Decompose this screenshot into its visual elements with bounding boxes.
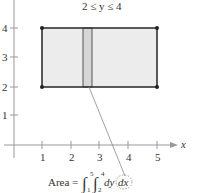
formula-prefix: Area = xyxy=(48,177,78,188)
inner-differential: dy xyxy=(104,177,114,188)
x-tick-label-4: 4 xyxy=(126,152,132,163)
x-tick-label-2: 2 xyxy=(69,152,75,163)
x-tick-label-1: 1 xyxy=(40,152,46,163)
x-tick-label-3: 3 xyxy=(97,152,103,163)
x-axis-arrow-icon xyxy=(170,142,178,148)
region-rectangle xyxy=(42,28,157,87)
diagram-canvas: ∫ ∫ xyxy=(0,0,198,193)
outer-upper-limit: 5 xyxy=(90,169,94,180)
inner-lower-limit: 2 xyxy=(98,185,102,193)
constraint-label: 2 ≤ y ≤ 4 xyxy=(82,1,122,12)
y-tick-label-4: 4 xyxy=(2,23,8,34)
leader-line xyxy=(89,87,125,176)
y-tick-label-1: 1 xyxy=(2,110,8,121)
x-axis-label: x xyxy=(181,139,186,150)
y-tick-label-3: 3 xyxy=(2,52,8,63)
representative-strip xyxy=(83,28,92,87)
y-tick-label-2: 2 xyxy=(2,82,8,93)
outer-differential: dx xyxy=(118,177,128,188)
outer-lower-limit: 1 xyxy=(87,185,91,193)
x-tick-label-5: 5 xyxy=(155,152,161,163)
